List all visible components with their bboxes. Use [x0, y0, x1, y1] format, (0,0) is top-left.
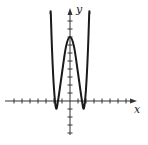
y-axis-arrow-icon [68, 8, 73, 15]
y-axis-label: y [75, 3, 83, 16]
x-axis-label: x [134, 103, 141, 116]
function-graph: x y [0, 0, 148, 145]
